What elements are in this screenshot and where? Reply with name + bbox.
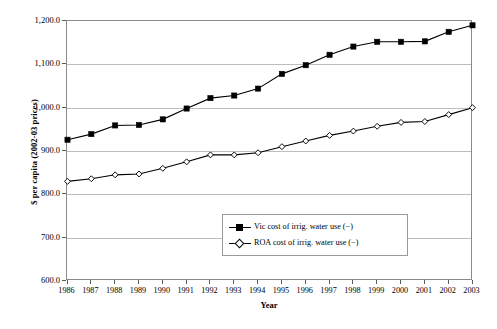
series-vic xyxy=(65,23,475,143)
x-axis-title: Year xyxy=(66,300,472,311)
y-axis-tick-label: 600.0 xyxy=(0,275,66,285)
y-axis-tick-label: 900.0 xyxy=(0,145,66,155)
data-point-filled-square xyxy=(398,39,403,44)
y-axis-tick-mark xyxy=(62,280,66,281)
data-point-filled-square xyxy=(89,132,94,137)
data-point-filled-square xyxy=(113,123,118,128)
x-axis-tick-label: 2003 xyxy=(452,286,492,296)
data-point-open-diamond xyxy=(65,178,71,184)
series-line xyxy=(68,25,473,139)
y-axis-tick-label: 1,200.0 xyxy=(0,15,66,25)
data-point-open-diamond xyxy=(136,171,142,177)
legend-item-roa[interactable]: ROA cost of irrig. water use (−) xyxy=(228,235,402,251)
y-axis-tick-label: 700.0 xyxy=(0,232,66,242)
legend-item-vic[interactable]: Vic cost of irrig. water use (−) xyxy=(228,219,402,235)
data-point-filled-square xyxy=(327,52,332,57)
data-point-filled-square xyxy=(232,93,237,98)
data-point-open-diamond xyxy=(374,123,380,129)
data-point-open-diamond xyxy=(422,119,428,125)
data-point-open-diamond xyxy=(303,138,309,144)
series-line xyxy=(68,108,473,182)
data-point-filled-square xyxy=(65,137,70,142)
chart-legend: Vic cost of irrig. water use (−) ROA cos… xyxy=(222,214,408,256)
data-point-open-diamond xyxy=(231,152,237,158)
data-point-filled-square xyxy=(375,39,380,44)
legend-label-roa: ROA cost of irrig. water use (−) xyxy=(254,235,358,251)
data-point-filled-square xyxy=(279,71,284,76)
data-point-filled-square xyxy=(136,122,141,127)
data-point-open-diamond xyxy=(112,172,118,178)
data-point-open-diamond xyxy=(470,105,476,111)
data-point-filled-square xyxy=(160,117,165,122)
data-point-filled-square xyxy=(303,63,308,68)
data-point-open-diamond xyxy=(327,132,333,138)
y-axis-tick-label: 1,100.0 xyxy=(0,58,66,68)
data-point-open-diamond xyxy=(350,128,356,134)
open-diamond-marker-icon xyxy=(228,237,252,249)
data-point-open-diamond xyxy=(446,112,452,118)
data-point-filled-square xyxy=(422,39,427,44)
data-point-open-diamond xyxy=(88,176,94,182)
y-axis-tick-label: 1,000.0 xyxy=(0,102,66,112)
data-point-open-diamond xyxy=(398,119,404,125)
y-axis-tick-label: 800.0 xyxy=(0,188,66,198)
data-point-filled-square xyxy=(446,29,451,34)
data-point-open-diamond xyxy=(160,165,166,171)
line-chart: $ per capita (2002-03 prices) 1,200.01,1… xyxy=(0,0,497,329)
legend-label-vic: Vic cost of irrig. water use (−) xyxy=(254,219,353,235)
filled-square-marker-icon xyxy=(228,221,252,233)
data-point-filled-square xyxy=(351,44,356,49)
data-point-filled-square xyxy=(184,106,189,111)
data-point-filled-square xyxy=(255,86,260,91)
data-point-open-diamond xyxy=(207,152,213,158)
data-point-filled-square xyxy=(208,96,213,101)
data-point-open-diamond xyxy=(184,159,190,165)
data-point-open-diamond xyxy=(255,150,261,156)
series-roa xyxy=(65,105,476,185)
data-point-open-diamond xyxy=(279,144,285,150)
data-point-filled-square xyxy=(470,23,475,28)
